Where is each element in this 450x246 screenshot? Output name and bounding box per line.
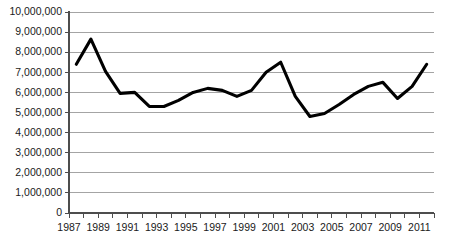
y-axis-tick-label: 8,000,000 bbox=[15, 45, 62, 57]
x-axis-tickmarks bbox=[69, 213, 434, 218]
x-axis-tick-label: 1995 bbox=[174, 221, 198, 233]
x-axis-tick-label: 1991 bbox=[116, 221, 140, 233]
y-axis-tick-label: 3,000,000 bbox=[15, 146, 62, 158]
data-series-line bbox=[76, 39, 426, 116]
y-axis-tick-label: 4,000,000 bbox=[15, 126, 62, 138]
x-axis-tick-label: 2009 bbox=[379, 221, 403, 233]
x-axis-tick-label: 2005 bbox=[320, 221, 344, 233]
line-chart: 10,000,0009,000,0008,000,0007,000,0006,0… bbox=[0, 0, 450, 246]
y-axis-tick-label: 7,000,000 bbox=[15, 66, 62, 78]
x-axis-tick-label: 1997 bbox=[203, 221, 227, 233]
chart-canvas: 10,000,0009,000,0008,000,0007,000,0006,0… bbox=[0, 0, 450, 246]
y-axis-tick-label: 5,000,000 bbox=[15, 106, 62, 118]
x-axis-tick-label: 1989 bbox=[87, 221, 111, 233]
y-axis-tick-label: 6,000,000 bbox=[15, 86, 62, 98]
y-axis-tick-label: 10,000,000 bbox=[9, 5, 62, 17]
x-axis-tick-label: 1999 bbox=[233, 221, 257, 233]
y-axis-tick-label: 1,000,000 bbox=[15, 186, 62, 198]
series-line bbox=[76, 39, 426, 116]
y-axis-tick-label: 2,000,000 bbox=[15, 166, 62, 178]
y-axis-tick-label: 0 bbox=[56, 206, 62, 218]
x-axis-tick-label: 1987 bbox=[57, 221, 81, 233]
x-axis-tick-label: 2011 bbox=[408, 221, 431, 233]
y-axis-tick-label: 9,000,000 bbox=[15, 25, 62, 37]
x-axis-tick-label: 1993 bbox=[145, 221, 169, 233]
x-axis-tick-label: 2007 bbox=[349, 221, 373, 233]
x-axis-tick-label: 2001 bbox=[262, 221, 286, 233]
x-axis-tick-labels: 1987198919911993199519971999200120032005… bbox=[57, 221, 431, 233]
gridlines bbox=[69, 12, 434, 193]
x-axis-tick-label: 2003 bbox=[291, 221, 315, 233]
y-axis-tick-labels: 10,000,0009,000,0008,000,0007,000,0006,0… bbox=[9, 5, 69, 218]
